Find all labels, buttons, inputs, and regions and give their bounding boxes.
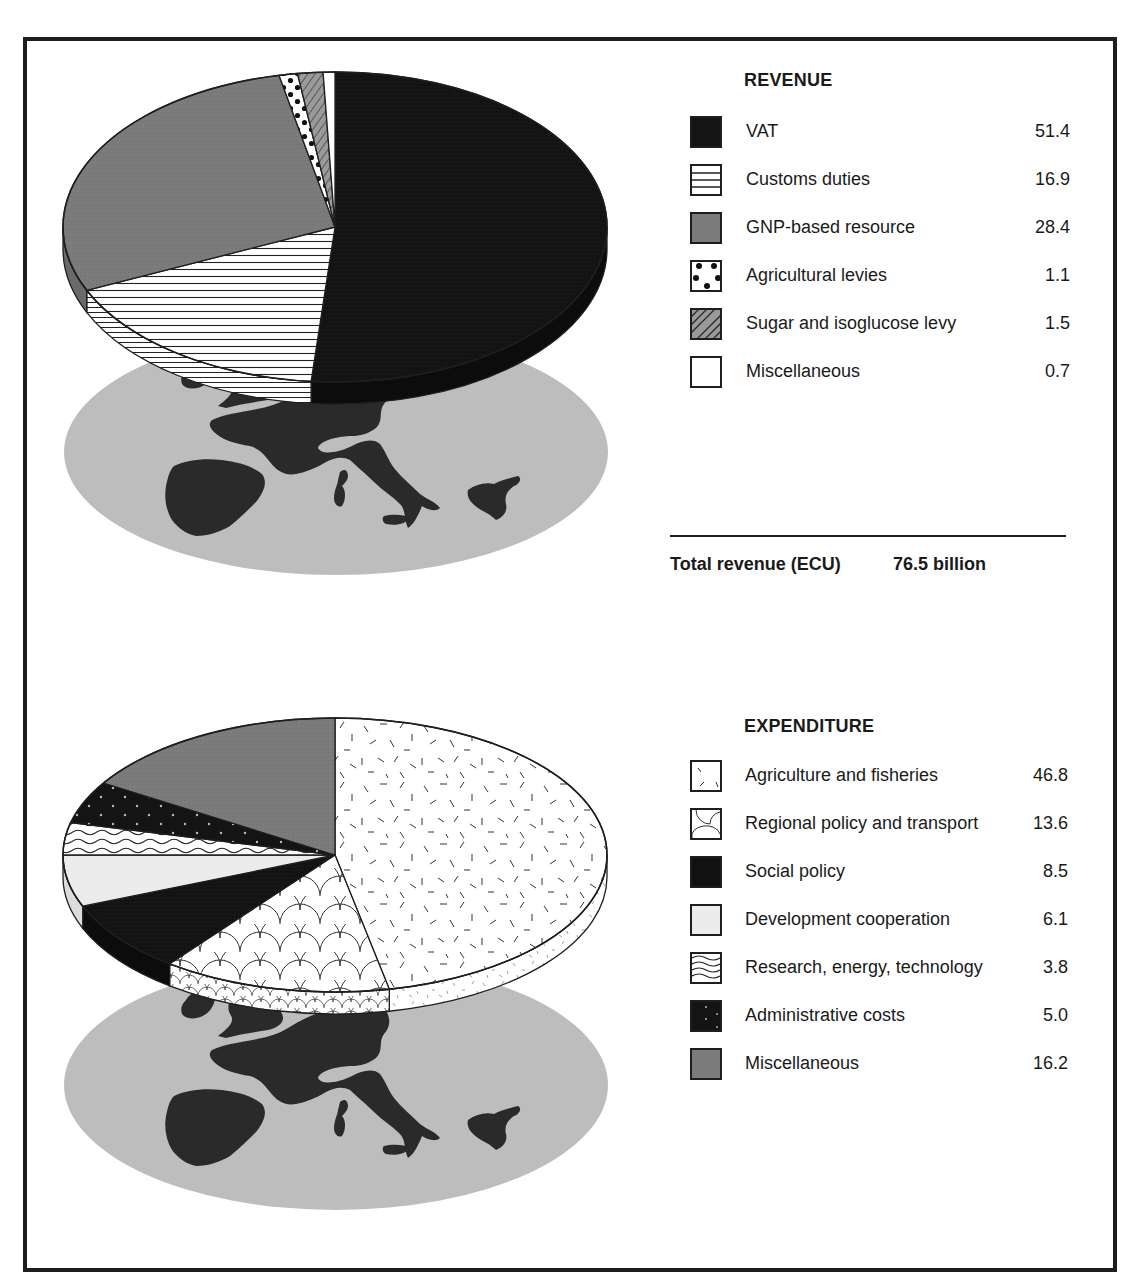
revenue-title: REVENUE <box>744 70 832 91</box>
legend-item-regional-policy-transport: Regional policy and transport 13.6 <box>690 808 1070 842</box>
waves-swatch-icon <box>690 952 722 984</box>
dots-swatch-icon <box>690 260 722 292</box>
legend-value: 8.5 <box>1043 861 1068 882</box>
legend-item-development-cooperation: Development cooperation 6.1 <box>690 904 1070 938</box>
legend-value: 0.7 <box>1045 361 1070 382</box>
legend-value: 1.5 <box>1045 313 1070 334</box>
legend-item-agriculture-fisheries: Agriculture and fisheries 46.8 <box>690 760 1070 794</box>
legend-item-agricultural-levies: Agricultural levies 1.1 <box>690 260 1070 294</box>
expenditure-pie-chart <box>63 718 607 1014</box>
legend-label: Agriculture and fisheries <box>745 765 938 786</box>
solid-grey-swatch-icon <box>690 1048 722 1080</box>
solid-black-swatch-icon <box>690 116 722 148</box>
legend-value: 5.0 <box>1043 1005 1068 1026</box>
legend-item-sugar-isoglucose-levy: Sugar and isoglucose levy 1.5 <box>690 308 1070 342</box>
legend-label: Development cooperation <box>745 909 950 930</box>
legend-label: Miscellaneous <box>745 1053 859 1074</box>
solid-black-swatch-icon <box>690 856 722 888</box>
legend-label: Agricultural levies <box>746 265 887 286</box>
legend-value: 16.2 <box>1033 1053 1068 1074</box>
light-grey-swatch-icon <box>690 904 722 936</box>
legend-value: 51.4 <box>1035 121 1070 142</box>
diagonal-hatch-swatch-icon <box>690 308 722 340</box>
legend-value: 6.1 <box>1043 909 1068 930</box>
legend-label: Regional policy and transport <box>745 813 978 834</box>
legend-label: Research, energy, technology <box>745 957 983 978</box>
horizontal-lines-swatch-icon <box>690 164 722 196</box>
legend-label: Customs duties <box>746 169 870 190</box>
legend-label: Administrative costs <box>745 1005 905 1026</box>
legend-value: 13.6 <box>1033 813 1068 834</box>
legend-label: Social policy <box>745 861 845 882</box>
black-marks-swatch-icon <box>690 1000 722 1032</box>
pie-slice-vat <box>311 72 607 382</box>
white-swatch-icon <box>690 356 722 388</box>
legend-label: VAT <box>746 121 778 142</box>
legend-value: 46.8 <box>1033 765 1068 786</box>
legend-item-gnp-based-resource: GNP-based resource 28.4 <box>690 212 1070 246</box>
legend-item-vat: VAT 51.4 <box>690 116 1070 150</box>
expenditure-title: EXPENDITURE <box>744 716 874 737</box>
legend-label: Miscellaneous <box>746 361 860 382</box>
legend-label: GNP-based resource <box>746 217 915 238</box>
legend-item-miscellaneous: Miscellaneous 16.2 <box>690 1048 1070 1082</box>
legend-label: Sugar and isoglucose levy <box>746 313 956 334</box>
legend-item-administrative-costs: Administrative costs 5.0 <box>690 1000 1070 1034</box>
scales-swatch-icon <box>690 808 722 840</box>
legend-item-customs-duties: Customs duties 16.9 <box>690 164 1070 198</box>
random-dashes-swatch-icon <box>690 760 722 792</box>
total-revenue-value: 76.5 billion <box>893 554 986 575</box>
solid-grey-swatch-icon <box>690 212 722 244</box>
legend-item-research-energy-technology: Research, energy, technology 3.8 <box>690 952 1070 986</box>
revenue-pie-chart <box>63 72 607 404</box>
total-divider <box>670 535 1066 537</box>
legend-item-miscellaneous: Miscellaneous 0.7 <box>690 356 1070 390</box>
total-revenue-label: Total revenue (ECU) <box>670 554 841 575</box>
legend-value: 28.4 <box>1035 217 1070 238</box>
legend-value: 1.1 <box>1045 265 1070 286</box>
legend-value: 16.9 <box>1035 169 1070 190</box>
legend-value: 3.8 <box>1043 957 1068 978</box>
legend-item-social-policy: Social policy 8.5 <box>690 856 1070 890</box>
